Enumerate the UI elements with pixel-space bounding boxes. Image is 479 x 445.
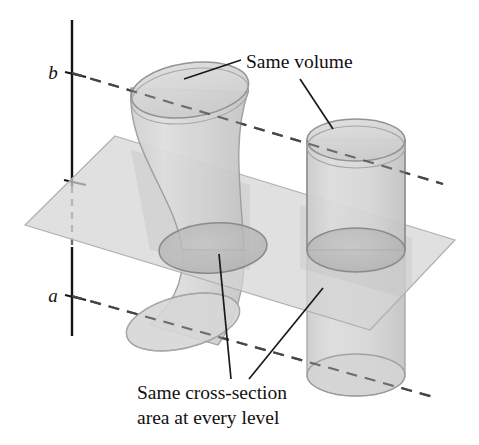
axis-label-b: b [48,62,58,83]
cross-section-caption-line-1: Same cross-section [137,382,287,403]
same-volume-label: Same volume [246,51,353,72]
leader-line-volume-right [300,79,333,129]
axis-label-a: a [48,285,58,306]
right-solid-top-cap [307,119,405,161]
cross-section-caption-line-2: area at every level [137,407,280,428]
figure-illustration: b a Same volume Same cross-section area … [0,0,479,445]
right-solid-cross-section [307,228,405,272]
figure-root: b a Same volume Same cross-section area … [0,0,479,445]
right-solid-upper-portion [307,119,405,272]
